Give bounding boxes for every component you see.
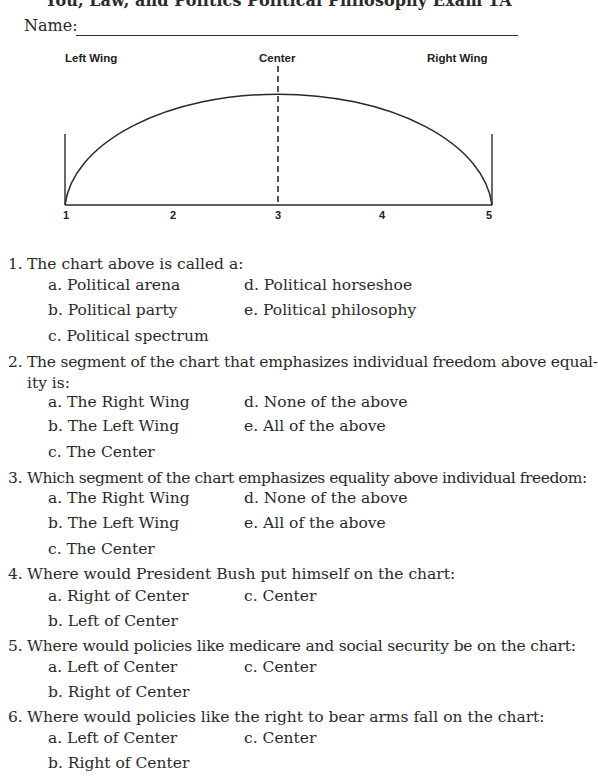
option-b[interactable]: b. The Left Wing bbox=[48, 513, 179, 533]
question-text: Which segment of the chart emphasizes eq… bbox=[27, 468, 587, 488]
option-b[interactable]: b. Right of Center bbox=[48, 753, 189, 773]
option-a[interactable]: a. Left of Center bbox=[48, 728, 177, 748]
option-a[interactable]: a. Political arena bbox=[48, 275, 180, 295]
question-text: Where would policies like medicare and s… bbox=[27, 636, 576, 656]
option-e[interactable]: e. Political philosophy bbox=[244, 300, 416, 320]
option-d[interactable]: d. None of the above bbox=[244, 392, 407, 412]
option-c[interactable]: c. Center bbox=[244, 586, 316, 606]
question-number: 4. bbox=[8, 564, 23, 584]
political-spectrum-diagram bbox=[0, 0, 557, 240]
option-c[interactable]: c. Center bbox=[244, 728, 316, 748]
tick-2: 2 bbox=[170, 209, 176, 221]
tick-5: 5 bbox=[486, 209, 492, 221]
option-b[interactable]: b. Right of Center bbox=[48, 682, 189, 702]
option-c[interactable]: c. The Center bbox=[48, 442, 155, 462]
question-text: Where would policies like the right to b… bbox=[27, 707, 545, 727]
question-number: 3. bbox=[8, 468, 23, 488]
option-a[interactable]: a. Left of Center bbox=[48, 657, 177, 677]
option-b[interactable]: b. The Left Wing bbox=[48, 416, 179, 436]
left-wing-label: Left Wing bbox=[65, 52, 117, 64]
question-number: 2. bbox=[8, 352, 23, 372]
option-b[interactable]: b. Left of Center bbox=[48, 611, 178, 631]
center-label: Center bbox=[259, 52, 295, 64]
right-wing-label: Right Wing bbox=[427, 52, 488, 64]
option-c[interactable]: c. Political spectrum bbox=[48, 326, 209, 346]
option-e[interactable]: e. All of the above bbox=[244, 416, 386, 436]
tick-3: 3 bbox=[275, 209, 281, 221]
question-text: Where would President Bush put himself o… bbox=[27, 564, 455, 584]
option-a[interactable]: a. The Right Wing bbox=[48, 488, 190, 508]
option-a[interactable]: a. Right of Center bbox=[48, 586, 189, 606]
question-number: 6. bbox=[8, 707, 23, 727]
option-a[interactable]: a. The Right Wing bbox=[48, 392, 190, 412]
option-d[interactable]: d. Political horseshoe bbox=[244, 275, 412, 295]
option-d[interactable]: d. None of the above bbox=[244, 488, 407, 508]
option-c[interactable]: c. Center bbox=[244, 657, 316, 677]
option-b[interactable]: b. Political party bbox=[48, 300, 177, 320]
option-e[interactable]: e. All of the above bbox=[244, 513, 386, 533]
question-text: The chart above is called a: bbox=[27, 254, 243, 274]
option-c[interactable]: c. The Center bbox=[48, 539, 155, 559]
tick-1: 1 bbox=[63, 209, 69, 221]
question-number: 1. bbox=[8, 254, 23, 274]
question-text-continued: ity is: bbox=[27, 373, 70, 393]
question-number: 5. bbox=[8, 636, 23, 656]
tick-4: 4 bbox=[379, 209, 385, 221]
question-text: The segment of the chart that emphasizes… bbox=[27, 352, 598, 372]
